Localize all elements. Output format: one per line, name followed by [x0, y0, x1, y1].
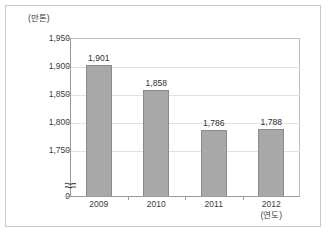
axis-break-icon — [63, 179, 78, 192]
x-tick-label: 2012 — [251, 199, 291, 209]
y-tick-mark — [67, 94, 71, 95]
chart-figure: (만톤) 1,9501,9001,8501,8001,7500 1,9011,8… — [0, 0, 329, 235]
bar — [258, 129, 284, 196]
x-tick-label: 2009 — [79, 199, 119, 209]
x-tick-label: 2011 — [194, 199, 234, 209]
y-tick-mark — [67, 66, 71, 67]
y-tick-label: 1,750 — [24, 146, 70, 155]
x-axis-unit-label: (연도) — [251, 210, 291, 220]
x-tick-mark — [185, 196, 186, 200]
y-tick-mark — [67, 122, 71, 123]
y-tick-label: 1,900 — [24, 62, 70, 71]
bar — [143, 90, 169, 196]
bar-value-label: 1,786 — [194, 119, 234, 128]
bar — [201, 130, 227, 196]
y-axis-ticks: 1,9501,9001,8501,8001,7500 — [0, 0, 70, 235]
y-tick-mark — [67, 196, 71, 197]
y-tick-label: 1,950 — [24, 34, 70, 43]
bar-value-label: 1,901 — [79, 54, 119, 63]
y-tick-mark — [67, 38, 71, 39]
x-tick-label: 2010 — [136, 199, 176, 209]
y-tick-label: 0 — [24, 192, 70, 201]
y-axis-line — [70, 38, 71, 196]
y-tick-label: 1,850 — [24, 90, 70, 99]
y-tick-label: 1,800 — [24, 118, 70, 127]
x-tick-mark — [128, 196, 129, 200]
bar-value-label: 1,788 — [251, 118, 291, 127]
x-tick-mark — [243, 196, 244, 200]
y-tick-mark — [67, 150, 71, 151]
bar-value-label: 1,858 — [136, 79, 176, 88]
bar — [86, 65, 112, 196]
